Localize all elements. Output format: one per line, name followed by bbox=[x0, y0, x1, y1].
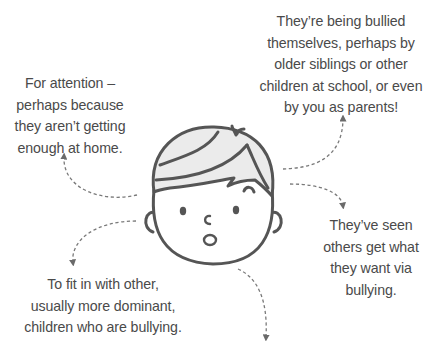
caption-line: They’re being bullied bbox=[248, 11, 426, 33]
caption-seen-others: They’ve seen others get what they want v… bbox=[316, 215, 426, 301]
caption-fit-in: To fit in with other, usually more domin… bbox=[0, 274, 206, 339]
caption-line: usually more dominant, bbox=[0, 296, 206, 318]
arrow-down bbox=[238, 269, 266, 338]
arrow-to-left bbox=[64, 156, 137, 197]
caption-line: children who are bullying. bbox=[0, 317, 206, 339]
caption-line: themselves, perhaps by bbox=[248, 33, 426, 55]
caption-line: they want via bbox=[316, 258, 426, 280]
arrow-to-top-right bbox=[283, 118, 343, 169]
caption-line: They’ve seen bbox=[316, 215, 426, 237]
caption-line: perhaps because bbox=[0, 95, 140, 117]
left-eye bbox=[180, 207, 186, 215]
caption-line: For attention – bbox=[0, 73, 140, 95]
caption-line: older siblings or other bbox=[248, 54, 426, 76]
caption-for-attention: For attention – perhaps because they are… bbox=[0, 73, 140, 159]
caption-bullied-themselves: They’re being bullied themselves, perhap… bbox=[248, 11, 426, 119]
caption-line: enough at home. bbox=[0, 138, 140, 160]
caption-line: others get what bbox=[316, 237, 426, 259]
caption-line: children at school, or even bbox=[248, 76, 426, 98]
caption-line: by you as parents! bbox=[248, 97, 426, 119]
caption-line: they aren’t getting bbox=[0, 116, 140, 138]
caption-line: bullying. bbox=[316, 280, 426, 302]
arrow-to-right bbox=[290, 184, 343, 206]
caption-line: To fit in with other, bbox=[0, 274, 206, 296]
arrow-to-bottom-left bbox=[73, 221, 136, 263]
child-face-illustration bbox=[146, 126, 281, 264]
right-eye bbox=[233, 206, 239, 214]
face-outline bbox=[153, 190, 272, 264]
